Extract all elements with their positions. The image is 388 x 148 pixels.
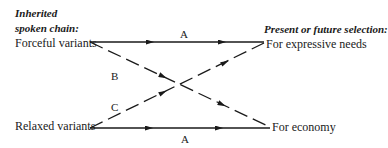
edge-c [90, 43, 264, 128]
